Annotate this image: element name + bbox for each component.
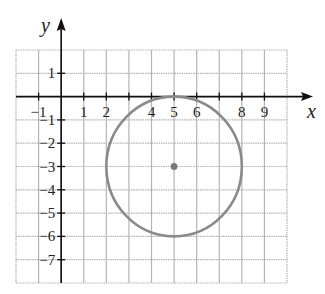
x-axis-label: x [306,100,316,122]
axes [16,18,313,283]
y-axis-label: y [39,14,50,37]
y-tick-labels: 1−1−2−3−4−5−6−7 [39,65,55,267]
y-tick-label: −1 [39,112,55,128]
x-tick-label: 9 [261,104,269,120]
x-tick-label: 2 [103,104,111,120]
coordinate-plane: −11245689 1−1−2−3−4−5−6−7 x y [0,0,325,294]
grid-lines [16,50,287,283]
y-tick-label: −6 [39,228,55,244]
y-tick-label: −7 [39,252,55,268]
y-tick-label: −5 [39,205,55,221]
y-tick-label: −3 [39,159,55,175]
x-tick-labels: −11245689 [31,104,269,120]
x-tick-label: 1 [80,104,88,120]
y-tick-label: −2 [39,135,55,151]
y-tick-label: −4 [39,182,55,198]
center-point [171,163,178,170]
x-tick-label: 4 [148,104,156,120]
x-tick-label: 6 [193,104,201,120]
y-tick-label: 1 [48,65,56,81]
x-tick-label: 8 [238,104,246,120]
x-tick-label: 5 [170,104,178,120]
